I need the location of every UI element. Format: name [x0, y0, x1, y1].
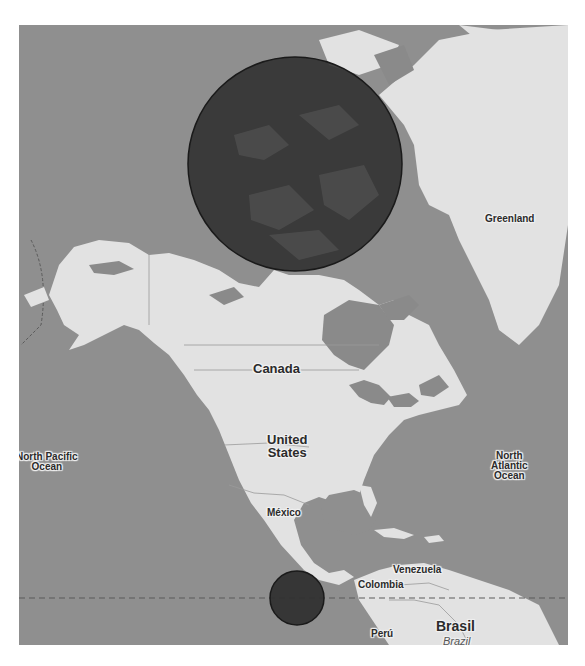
label-peru: Perú: [371, 629, 393, 639]
small-circle-overlay[interactable]: [270, 571, 324, 625]
label-united-states-line2: States: [267, 446, 307, 459]
label-brasil: Brasil: [436, 619, 475, 633]
label-north-pacific-ocean: North Pacific Ocean: [19, 452, 78, 472]
label-mexico: México: [267, 508, 301, 518]
label-venezuela: Venezuela: [393, 565, 441, 575]
map-view[interactable]: Greenland Canada United States North Pac…: [19, 25, 568, 645]
label-north-atlantic-line3: Ocean: [491, 471, 528, 481]
label-canada: Canada: [253, 362, 300, 375]
label-colombia: Colombia: [358, 580, 404, 590]
map-basemap: [19, 25, 568, 645]
label-united-states: United States: [267, 433, 307, 459]
cuba: [374, 528, 414, 539]
label-north-pacific-line2: Ocean: [19, 462, 78, 472]
label-north-atlantic-ocean: North Atlantic Ocean: [491, 451, 528, 481]
label-brazil: Brazil: [443, 636, 471, 645]
label-greenland: Greenland: [485, 214, 534, 224]
